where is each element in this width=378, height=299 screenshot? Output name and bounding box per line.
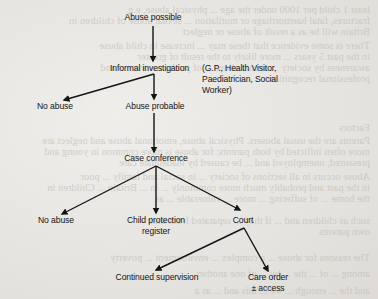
node-abuse-possible: Abuse possible <box>125 12 182 23</box>
edge-court-to-care-order <box>244 228 268 271</box>
node-continued-supervision: Continued supervision <box>116 272 199 283</box>
node-care-order-2: ± access <box>251 283 284 294</box>
node-informal-investigation-note-3: Worker) <box>202 85 232 96</box>
node-no-abuse-1: No abuse <box>37 101 73 112</box>
flowchart-edges <box>0 0 378 299</box>
node-informal-investigation-note-1: (G.P., Health Visitor, <box>202 63 276 74</box>
edge-conference-to-no-abuse <box>62 166 156 214</box>
node-case-conference: Case conference <box>124 153 187 164</box>
node-informal-investigation: Informal investigation <box>110 63 189 74</box>
node-no-abuse-2: No abuse <box>38 215 74 226</box>
node-child-protection-register-1: Child protection <box>127 215 185 226</box>
node-child-protection-register-2: register <box>142 226 170 237</box>
edge-investigation-to-no-abuse <box>64 74 154 100</box>
node-abuse-probable: Abuse probable <box>126 101 185 112</box>
node-care-order-1: Care order <box>248 272 288 283</box>
edge-conference-to-court <box>156 166 240 210</box>
node-informal-investigation-note-2: Paediatrician, Social <box>202 74 278 85</box>
node-court: Court <box>233 215 254 226</box>
